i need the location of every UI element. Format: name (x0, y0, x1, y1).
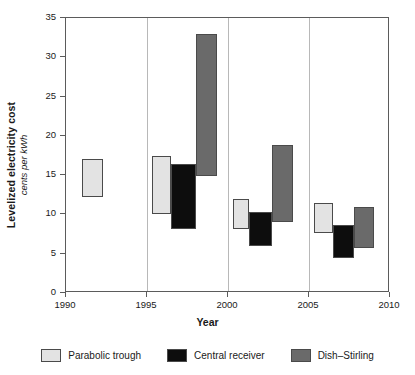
y-axis-tick-label: 20 (34, 130, 56, 140)
legend-swatch (291, 349, 311, 362)
y-axis-tick-label: 35 (34, 12, 56, 22)
plot-area (65, 17, 389, 292)
x-axis-title: Year (0, 316, 415, 328)
x-axis-tick-mark (65, 292, 66, 297)
y-axis-tick-label: 25 (34, 91, 56, 101)
x-axis-tick-mark (227, 292, 228, 297)
y-axis-tick-mark (60, 213, 65, 214)
gridline-vertical (228, 18, 229, 291)
range-bar (82, 159, 103, 197)
legend-label: Parabolic trough (68, 350, 141, 361)
y-axis-tick-mark (60, 17, 65, 18)
x-axis-tick-label: 1990 (45, 299, 85, 310)
y-axis-tick-label: 5 (34, 248, 56, 258)
y-axis-tick-label: 30 (34, 51, 56, 61)
y-axis-tick-mark (60, 174, 65, 175)
legend-entry: Central receiver (167, 349, 265, 362)
range-bar (152, 156, 171, 214)
chart-figure: Levelized electricity cost cents per kWh… (0, 0, 415, 375)
x-axis-tick-mark (308, 292, 309, 297)
range-bar (233, 199, 249, 229)
x-axis-tick-label: 2010 (369, 299, 409, 310)
legend-label: Dish–Stirling (318, 350, 374, 361)
legend-label: Central receiver (194, 350, 265, 361)
y-axis-tick-mark (60, 253, 65, 254)
range-bar (333, 225, 354, 257)
y-axis-tick-label: 15 (34, 169, 56, 179)
y-axis-title-units: cents per kWh (18, 60, 30, 270)
chart-legend: Parabolic troughCentral receiverDish–Sti… (0, 344, 415, 366)
y-axis-title-main: Levelized electricity cost (5, 60, 17, 270)
y-axis-tick-mark (60, 96, 65, 97)
x-axis-tick-label: 1995 (126, 299, 166, 310)
range-bar (171, 164, 195, 228)
range-bar (272, 145, 293, 223)
gridline-vertical (309, 18, 310, 291)
gridline-vertical (147, 18, 148, 291)
y-axis-tick-label: 10 (34, 208, 56, 218)
legend-swatch (41, 349, 61, 362)
y-axis-tick-mark (60, 135, 65, 136)
y-axis-tick-label: 0 (34, 287, 56, 297)
x-axis-tick-mark (146, 292, 147, 297)
x-axis-tick-label: 2000 (207, 299, 247, 310)
y-axis-tick-mark (60, 56, 65, 57)
x-axis-tick-mark (389, 292, 390, 297)
range-bar (354, 207, 373, 248)
range-bar (196, 34, 217, 176)
range-bar (314, 203, 333, 233)
legend-entry: Dish–Stirling (291, 349, 374, 362)
range-bar (249, 212, 272, 246)
legend-entry: Parabolic trough (41, 349, 141, 362)
x-axis-tick-label: 2005 (288, 299, 328, 310)
legend-swatch (167, 349, 187, 362)
